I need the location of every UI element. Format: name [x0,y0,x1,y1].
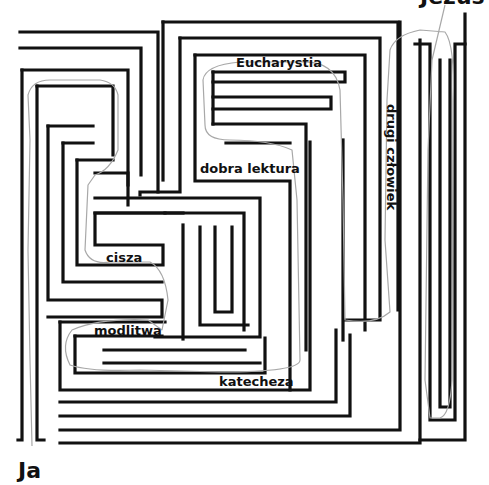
maze-diagram: Eucharystia dobra lektura cisza modlitwa… [0,0,489,485]
label-drugi-czlowiek: drugi człowiek [384,104,399,211]
label-dobra-lektura: dobra lektura [200,161,300,176]
label-eucharystia: Eucharystia [236,55,322,70]
label-katecheza: katecheza [219,374,294,389]
label-end-jezus: Jezus [418,0,485,9]
label-modlitwa: modlitwa [94,323,162,338]
label-cisza: cisza [106,250,142,265]
label-start-ja: Ja [16,458,41,483]
